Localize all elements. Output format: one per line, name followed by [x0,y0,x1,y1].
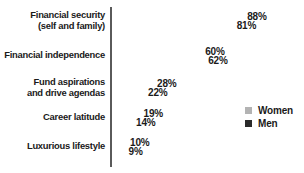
bar-value-label: 62% [208,55,227,66]
legend-item-men: Men [245,117,293,130]
bar-value-label: 81% [237,20,256,31]
bar-men: 9% [111,148,125,155]
grouped-bar-chart: Financial security (self and family)88%8… [0,0,304,173]
bar-women: 88% [111,13,243,20]
category-label: Financial security (self and family) [0,10,105,31]
legend-label: Men [258,118,277,129]
bar-men: 14% [111,119,132,126]
legend-swatch [245,120,252,127]
bar-women: 10% [111,139,126,146]
bar-women: 60% [111,48,201,55]
bar-value-label: 9% [129,146,143,157]
category-label: Luxurious lifestyle [0,141,105,151]
category-label: Career latitude [0,112,105,122]
bar-men: 62% [111,57,204,64]
category-label: Fund aspirations and drive agendas [0,77,105,98]
chart-legend: WomenMen [245,104,293,130]
category-label: Financial independence [0,50,105,60]
bar-women: 28% [111,80,153,87]
bar-men: 81% [111,22,233,29]
bar-value-label: 22% [148,87,167,98]
bar-men: 22% [111,89,144,96]
legend-item-women: Women [245,104,293,117]
bar-value-label: 14% [136,117,155,128]
legend-label: Women [258,105,293,116]
bar-women: 19% [111,110,140,117]
legend-swatch [245,107,252,114]
bar-groups: Financial security (self and family)88%8… [0,0,304,173]
plot-area: Financial security (self and family)88%8… [0,0,304,173]
